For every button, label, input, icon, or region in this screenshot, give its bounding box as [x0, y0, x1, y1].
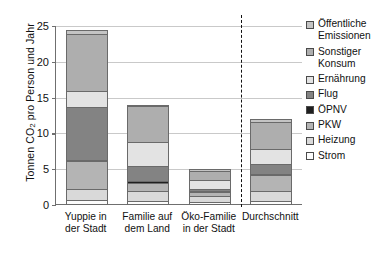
bar-segment	[127, 166, 169, 181]
co2-stacked-bar-chart: Tonnen CO2 pro Person und Jahr 051015202…	[0, 0, 389, 258]
x-axis-label-4: Durchschnitt	[240, 211, 302, 223]
bar-segment	[250, 149, 292, 163]
y-axis-tick	[52, 26, 56, 27]
bar-segment	[127, 191, 169, 200]
bar-1[interactable]	[66, 30, 108, 205]
legend-item[interactable]: Heizung	[306, 134, 389, 146]
x-axis-label-1: Yuppie inder Stadt	[55, 211, 117, 236]
bar-segment	[250, 191, 292, 200]
y-axis-tick-label: 10	[37, 127, 49, 139]
bar-segment	[250, 201, 292, 205]
x-axis-label-line: in der Stadt	[178, 223, 240, 235]
x-axis-label-line: Durchschnitt	[240, 211, 302, 223]
bar-segment	[127, 183, 169, 192]
bar-3[interactable]	[189, 169, 231, 205]
legend-swatch-icon	[306, 21, 314, 29]
x-axis-label-line: der Stadt	[55, 223, 117, 235]
y-axis-title-subscript: 2	[28, 123, 37, 128]
x-axis-label-3: Öko-Familiein der Stadt	[178, 211, 240, 236]
bar-segment	[66, 34, 108, 91]
legend-swatch-icon	[306, 137, 314, 145]
x-axis-label-2: Familie aufdem Land	[117, 211, 179, 236]
y-axis-tick-label: 15	[37, 92, 49, 104]
category-separator	[241, 15, 242, 207]
bar-segment	[66, 107, 108, 160]
bar-segment	[127, 106, 169, 142]
y-axis-title-pre: Tonnen CO	[24, 128, 36, 182]
legend-swatch-icon	[306, 48, 314, 56]
y-axis-tick	[52, 62, 56, 63]
legend-item[interactable]: PKW	[306, 119, 389, 131]
bar-segment	[127, 142, 169, 166]
gridline	[56, 26, 302, 27]
bar-segment	[250, 164, 292, 174]
legend-item-label: Sonstiger Konsum	[318, 46, 389, 71]
legend-item[interactable]: Flug	[306, 88, 389, 100]
legend-item-label: Flug	[318, 88, 338, 100]
y-axis-tick-label: 5	[43, 163, 49, 175]
legend-item-label: ÖPNV	[318, 104, 347, 116]
legend-swatch-icon	[306, 122, 314, 130]
y-axis-tick	[52, 205, 56, 206]
legend-item-label: Ernährung	[318, 73, 366, 85]
y-axis-tick	[52, 98, 56, 99]
y-axis-tick-label: 20	[37, 56, 49, 68]
bar-segment	[189, 171, 231, 180]
y-axis-tick-label: 0	[43, 199, 49, 211]
legend-swatch-icon	[306, 152, 314, 160]
y-axis-title-post: pro Person und Jahr	[24, 23, 36, 123]
legend-item-label: PKW	[318, 119, 341, 131]
legend-item[interactable]: Öffentliche Emissionen	[306, 18, 389, 43]
bar-segment	[66, 200, 108, 205]
bar-segment	[189, 180, 231, 189]
bar-segment	[66, 91, 108, 107]
x-axis-label-line: dem Land	[117, 223, 179, 235]
y-axis-tick-label: 25	[37, 20, 49, 32]
x-axis-label-line: Öko-Familie	[178, 211, 240, 223]
y-axis-tick	[52, 133, 56, 134]
legend-item[interactable]: Strom	[306, 150, 389, 162]
legend-item[interactable]: Sonstiger Konsum	[306, 46, 389, 71]
bar-segment	[250, 175, 292, 191]
bar-2[interactable]	[127, 105, 169, 205]
legend-item-label: Strom	[318, 150, 345, 162]
x-axis-label-line: Yuppie in	[55, 211, 117, 223]
legend-item[interactable]: ÖPNV	[306, 104, 389, 116]
y-axis-title: Tonnen CO2 pro Person und Jahr	[24, 3, 37, 203]
bar-segment	[250, 122, 292, 149]
bar-segment	[189, 202, 231, 205]
legend-swatch-icon	[306, 76, 314, 84]
bar-4[interactable]	[250, 119, 292, 205]
legend-item-label: Öffentliche Emissionen	[318, 18, 389, 43]
legend-item[interactable]: Ernährung	[306, 73, 389, 85]
y-axis-tick	[52, 169, 56, 170]
legend-item-label: Heizung	[318, 134, 355, 146]
bar-segment	[66, 189, 108, 200]
legend-swatch-icon	[306, 91, 314, 99]
chart-legend: Öffentliche EmissionenSonstiger KonsumEr…	[306, 18, 389, 165]
bar-segment	[127, 201, 169, 205]
legend-swatch-icon	[306, 106, 314, 114]
bar-segment	[66, 161, 108, 188]
plot-area: 0510152025	[55, 26, 301, 205]
x-axis-label-line: Familie auf	[117, 211, 179, 223]
